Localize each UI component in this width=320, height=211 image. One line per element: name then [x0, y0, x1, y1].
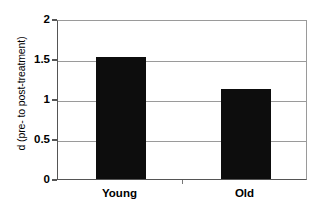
y-tick-label-wrap: 1.5 [0, 54, 50, 65]
bar-young [96, 57, 146, 179]
bar-chart: d (pre- to post-treatment) 00.511.52 You… [0, 0, 320, 211]
y-tick-label-wrap: 1 [0, 94, 50, 105]
y-tick-label-wrap: 0.5 [0, 134, 50, 145]
y-tick-label: 0.5 [14, 134, 50, 145]
x-label-young: Young [60, 187, 180, 200]
y-tick-label: 1 [14, 94, 50, 105]
plot-area [57, 20, 307, 180]
x-label-old: Old [185, 187, 305, 200]
x-axis-separator-tick [182, 180, 183, 184]
y-tick-label: 1.5 [14, 54, 50, 65]
bars [58, 21, 306, 179]
y-tick-label-wrap: 0 [0, 174, 50, 185]
y-tick-label: 0 [14, 174, 50, 185]
y-tick-label-wrap: 2 [0, 14, 50, 25]
y-tick-label: 2 [14, 14, 50, 25]
bar-old [221, 89, 271, 179]
